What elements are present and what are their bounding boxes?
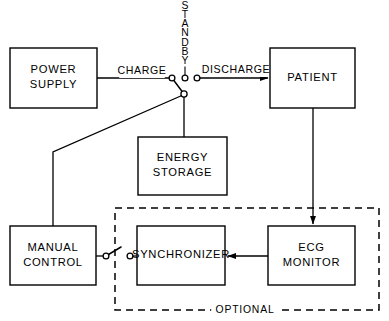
block-ecg_monitor-label: ECG [298, 241, 324, 253]
block-manual_control-label: MANUAL [28, 241, 79, 253]
switch-mode-switch[interactable] [169, 75, 200, 97]
switch-sync-switch[interactable] [103, 247, 133, 259]
block-synchronizer: SYNCHRONIZER [132, 226, 230, 285]
block-patient-label: PATIENT [287, 71, 337, 83]
block-energy_storage-label: ENERGY [157, 151, 208, 163]
flow-label-charge: CHARGE [118, 64, 167, 76]
defibrillator-block-diagram: POWERSUPPLYPATIENTENERGYSTORAGEMANUALCON… [0, 0, 389, 321]
switch-contact-charge-contact[interactable] [169, 75, 175, 81]
block-manual_control-label: CONTROL [23, 256, 83, 268]
block-patient: PATIENT [270, 48, 355, 108]
block-ecg_monitor-label: MONITOR [283, 256, 341, 268]
boxes-layer: POWERSUPPLYPATIENTENERGYSTORAGEMANUALCON… [10, 48, 355, 285]
block-power_supply-label: SUPPLY [30, 78, 78, 90]
switch-contact-standby-contact[interactable] [182, 75, 188, 81]
block-power_supply-label: POWER [31, 63, 77, 75]
switch-contact-manual-contact[interactable] [103, 253, 109, 259]
standby-label: STANDBY [181, 0, 189, 66]
standby-label-letter: Y [182, 55, 189, 66]
block-manual_control: MANUALCONTROL [10, 226, 96, 285]
diagram-canvas: POWERSUPPLYPATIENTENERGYSTORAGEMANUALCON… [0, 0, 389, 321]
flow-label-discharge: DISCHARGE [202, 63, 270, 75]
switch-contact-energy-contact[interactable] [181, 91, 187, 97]
switch-contact-synchronizer-contact[interactable] [127, 253, 133, 259]
block-synchronizer-label: SYNCHRONIZER [132, 248, 230, 260]
block-ecg_monitor: ECGMONITOR [268, 226, 355, 285]
block-energy_storage-label: STORAGE [153, 166, 212, 178]
block-power_supply: POWERSUPPLY [10, 48, 97, 108]
switch-contact-discharge-contact[interactable] [194, 75, 200, 81]
optional-label: OPTIONAL [216, 304, 275, 315]
block-energy_storage: ENERGYSTORAGE [138, 137, 227, 195]
